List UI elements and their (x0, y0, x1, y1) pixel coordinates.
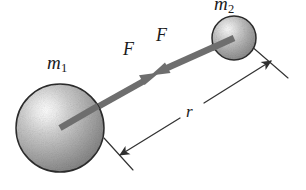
dimension-line-segment-left (120, 118, 180, 155)
force-label-on-m2: F (156, 26, 167, 44)
mass-label-m2-subscript: 2 (228, 2, 235, 16)
dimension-line-segment-right (204, 61, 271, 103)
mass-label-m1-subscript: 1 (61, 61, 68, 75)
figure-canvas (0, 0, 306, 190)
mass-label-m1-symbol: m (47, 52, 61, 73)
distance-label-r: r (186, 103, 193, 120)
mass-label-m2: m2 (214, 0, 234, 16)
gravitation-figure: m1 m2 F F r (0, 0, 306, 190)
mass-label-m1: m1 (47, 53, 67, 75)
distance-dimension-r (104, 45, 288, 170)
force-label-on-m1: F (123, 40, 134, 58)
witness-line-left (104, 138, 133, 170)
mass-label-m2-symbol: m (214, 0, 228, 14)
